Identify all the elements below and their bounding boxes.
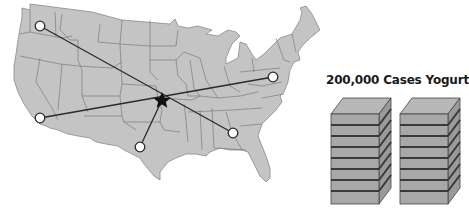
diagram-title: 200,000 Cases Yogurt bbox=[326, 73, 469, 87]
northeast-node-icon bbox=[268, 72, 278, 82]
us-map bbox=[14, 4, 320, 182]
yogurt-stack-left bbox=[331, 98, 391, 204]
texas-node-icon bbox=[135, 142, 145, 152]
yogurt-stack-right bbox=[400, 98, 460, 204]
distribution-diagram bbox=[0, 0, 469, 208]
us-map-outline bbox=[14, 4, 320, 182]
southeast-node-icon bbox=[228, 128, 238, 138]
northwest-node-icon bbox=[35, 21, 45, 31]
california-node-icon bbox=[35, 113, 45, 123]
